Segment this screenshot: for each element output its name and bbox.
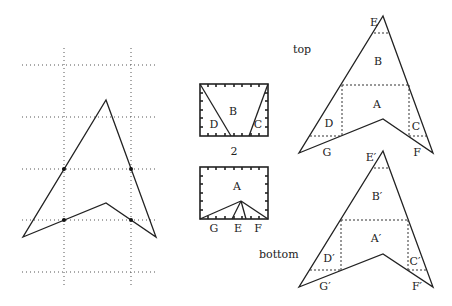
label-G: G: [210, 222, 219, 235]
label-B: B: [374, 55, 382, 68]
rect-ticks: [200, 167, 268, 219]
diagram-canvas: B D C 2 A G E F: [0, 0, 452, 306]
title-bottom: bottom: [259, 248, 299, 261]
title-top: top: [293, 43, 311, 56]
left-grid-figure: [22, 48, 158, 285]
label-D: D: [325, 117, 334, 130]
right-top-figure: top E B A D C G F: [293, 16, 433, 159]
label-A: A: [232, 180, 242, 193]
label-D-prime: D′: [323, 252, 335, 265]
label-B: B: [229, 105, 237, 118]
label-F-prime: F′: [412, 280, 423, 293]
label-C: C: [254, 118, 262, 131]
right-bottom-figure: bottom E′ B′ A′ D′ C′ G′ F′: [259, 151, 433, 293]
middle-bottom-rectangle: A G E F: [200, 167, 268, 235]
label-D: D: [210, 118, 219, 131]
label-F: F: [254, 222, 262, 235]
label-E: E: [234, 222, 242, 235]
label-G-prime: G′: [319, 280, 331, 293]
label-C: C: [412, 120, 420, 133]
label-A-prime: A′: [370, 232, 382, 245]
caption-2: 2: [231, 145, 238, 158]
middle-top-rectangle: B D C: [200, 84, 268, 136]
label-F: F: [413, 146, 421, 159]
grid-lines: [22, 48, 158, 285]
label-A: A: [372, 98, 382, 111]
label-B-prime: B′: [372, 190, 383, 203]
label-C-prime: C′: [410, 255, 421, 268]
label-G: G: [323, 146, 332, 159]
label-E: E: [370, 16, 378, 29]
label-E-prime: E′: [366, 151, 377, 164]
